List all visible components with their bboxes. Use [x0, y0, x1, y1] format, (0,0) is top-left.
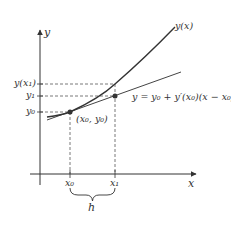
- step-label-h: h: [88, 202, 95, 213]
- y-tick-label-y-x1: y(x₁): [14, 78, 36, 88]
- dashed-guides: [40, 84, 115, 174]
- step-brace: [70, 188, 115, 201]
- point-x0-y0-label: (x₀, y₀): [76, 114, 108, 124]
- curve-label: y(x): [175, 21, 193, 31]
- point-x0-y0: [68, 110, 73, 115]
- x-axis-label: x: [188, 178, 194, 189]
- x-tick-label-x1: x₁: [110, 178, 119, 188]
- y-axis-label: y: [44, 27, 50, 38]
- point-x1-y1: [113, 94, 118, 99]
- y-tick-label-y1: y₁: [26, 90, 35, 100]
- y-tick-label-y0: y₀: [26, 106, 35, 116]
- x-tick-label-x0: x₀: [65, 178, 74, 188]
- tangent-label: y = y₀ + y′(x₀)(x − x₀): [132, 92, 231, 102]
- solution-curve: [47, 27, 175, 117]
